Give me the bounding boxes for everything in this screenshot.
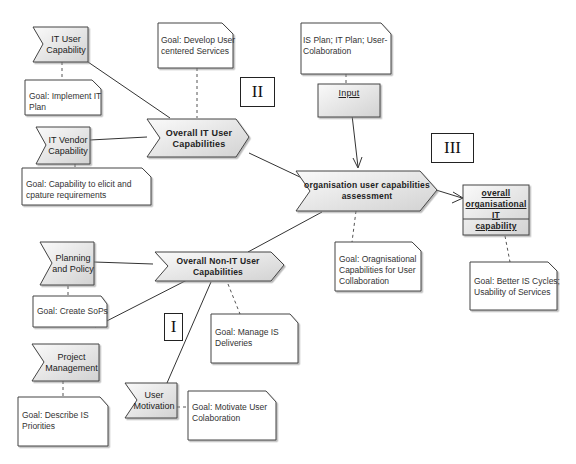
label-line: Overall Non-IT User Capabilities [155, 256, 281, 278]
label-line: and Policy [52, 264, 94, 275]
note-line: Goal: Implement IT [29, 91, 101, 102]
assessment-label: organisation user capabilities assessmen… [300, 172, 434, 210]
output-label: overall organisational IT capability [463, 186, 529, 234]
note-line: Goal: Capability to elicit and [26, 179, 131, 190]
marker-II: II [240, 77, 275, 107]
note-develop-user: Goal: Develop User centered Services [161, 35, 235, 57]
label-line: Management [45, 363, 98, 374]
label-line: assessment [342, 191, 393, 202]
label-line: Capability [48, 146, 88, 157]
label-line: Input [338, 88, 359, 99]
note-line: Goal: Manage IS [215, 327, 279, 338]
marker-I: I [164, 313, 183, 341]
note-better-is: Goal: Better IS Cycles; Usability of Ser… [474, 276, 560, 298]
label-line: IT User [51, 34, 80, 45]
note-line: Goal: Motivate User [192, 402, 267, 413]
label-line: Capability [46, 45, 86, 56]
note-line: Deliveries [215, 338, 279, 349]
note-describe-is: Goal: Describe IS Priorities [22, 410, 89, 432]
label-line: Planning [55, 253, 90, 264]
label-line: Motivation [133, 401, 174, 412]
note-manage-is: Goal: Manage IS Deliveries [215, 327, 279, 349]
label-line: Project [57, 352, 85, 363]
note-implement-it: Goal: Implement IT Plan [29, 91, 101, 113]
note-line: Capabilities for User [339, 265, 417, 276]
it-vendor-capability-label: IT Vendor Capability [46, 128, 90, 164]
label-line: Overall IT User [166, 128, 233, 139]
note-line: IS Plan; IT Plan; User- [303, 35, 387, 46]
project-management-label: Project Management [44, 345, 99, 381]
note-is-plan: IS Plan; IT Plan; User- Colaboration [303, 35, 387, 57]
label-line: IT Vendor [49, 135, 88, 146]
note-org-cap: Goal: Oragnisational Capabilities for Us… [339, 254, 417, 287]
note-create-sops: Goal: Create SoPs [37, 306, 108, 317]
label-line: Capabilities [173, 139, 226, 150]
label-line: capability [475, 221, 516, 232]
it-user-capability-label: IT User Capability [44, 28, 88, 62]
note-elicit: Goal: Capability to elicit and cpature r… [26, 179, 131, 201]
label-line: organisation user capabilities [304, 180, 430, 191]
note-line: Goal: Develop User [161, 35, 235, 46]
marker-III: III [431, 133, 474, 163]
note-motivate: Goal: Motivate User Colaboration [192, 402, 267, 424]
user-motivation-label: User Motivation [131, 384, 177, 418]
note-line: Goal: Oragnisational [339, 254, 417, 265]
note-line: centered Services [161, 46, 235, 57]
overall-it-label: Overall IT User Capabilities [158, 120, 240, 157]
note-line: Goal: Better IS Cycles; [474, 276, 560, 287]
label-line: organisational IT [463, 199, 529, 221]
note-line: cpature requirements [26, 190, 131, 201]
note-line: Plan [29, 102, 101, 113]
note-line: Colaboration [192, 413, 267, 424]
note-line: Colaboration [303, 46, 387, 57]
input-label: Input [318, 86, 380, 100]
note-line: Priorities [22, 421, 89, 432]
label-line: User [144, 390, 163, 401]
note-line: Goal: Describe IS [22, 410, 89, 421]
label-line: overall [482, 188, 511, 199]
planning-policy-label: Planning and Policy [52, 243, 94, 285]
note-line: Goal: Create SoPs [37, 306, 108, 317]
note-line: Collaboration [339, 276, 417, 287]
overall-non-it-label: Overall Non-IT User Capabilities [155, 253, 281, 281]
note-line: Usability of Services [474, 287, 560, 298]
diagram-canvas: II III I IT User Capability IT Vendor Ca… [0, 0, 576, 464]
